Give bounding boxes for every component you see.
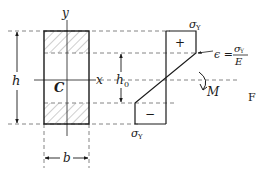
centroid-label: C	[54, 80, 65, 95]
moment-label: M	[206, 85, 220, 99]
strain-pointer-arrow	[198, 51, 213, 53]
bottom-plastic-zone	[44, 103, 89, 124]
core-height-subscript: 0	[124, 80, 129, 89]
guide-lines	[8, 31, 240, 168]
compression-sign: −	[145, 107, 155, 121]
height-label: h	[12, 73, 20, 88]
strain-label: ϵ =	[214, 48, 233, 61]
x-axis-label: x	[96, 73, 103, 87]
strain-denominator: E	[234, 56, 243, 67]
tension-sign: +	[175, 36, 185, 50]
top-stress-subscript: Y	[195, 24, 201, 32]
beam-section-diagram: y x C h b h 0 σ Y + − σ Y ϵ = σ Y E M F	[0, 0, 256, 169]
width-label: b	[63, 151, 71, 165]
caption-fragment: F	[248, 91, 256, 104]
y-axis-label: y	[61, 6, 69, 20]
core-height-label: h	[116, 73, 124, 87]
top-plastic-zone	[44, 31, 89, 53]
strain-numerator-subscript: Y	[239, 47, 245, 54]
bottom-stress-subscript: Y	[137, 133, 143, 141]
cross-section	[34, 20, 96, 136]
moment-arrow-icon	[199, 72, 206, 90]
